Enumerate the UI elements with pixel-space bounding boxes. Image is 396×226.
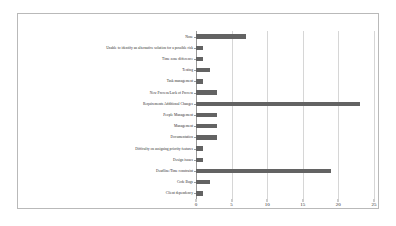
bar-row xyxy=(196,79,381,84)
category-label: Difficulty on assigning priority feature… xyxy=(40,147,193,151)
category-label: Deadline/Time constraint xyxy=(40,169,193,173)
bar-series xyxy=(196,31,381,199)
category-label: Time zone difference xyxy=(40,57,193,61)
bar-row xyxy=(196,191,381,196)
figure-canvas: NoneUnable to identify an alternative so… xyxy=(0,0,396,226)
bar xyxy=(196,113,217,118)
bar xyxy=(196,135,217,140)
bar-row xyxy=(196,90,381,95)
bar-row xyxy=(196,124,381,129)
bar-row xyxy=(196,180,381,185)
bar-row xyxy=(196,135,381,140)
bar xyxy=(196,158,203,163)
bar xyxy=(196,34,246,39)
value-tick-label-25: 25 xyxy=(371,202,376,208)
category-label: Testing xyxy=(40,68,193,72)
chart-frame: NoneUnable to identify an alternative so… xyxy=(17,13,379,209)
bar-row xyxy=(196,102,381,107)
bar xyxy=(196,191,203,196)
bar-row xyxy=(196,34,381,39)
value-tick-label-20: 20 xyxy=(336,202,341,208)
bar-row xyxy=(196,57,381,62)
bar-row xyxy=(196,113,381,118)
category-label: Requirements Additional Changes xyxy=(40,102,193,106)
bar xyxy=(196,169,331,174)
bar xyxy=(196,124,217,129)
bar-row xyxy=(196,46,381,51)
category-label: None xyxy=(40,35,193,39)
category-label: Management xyxy=(40,124,193,128)
bar xyxy=(196,102,360,107)
category-axis-labels: NoneUnable to identify an alternative so… xyxy=(40,31,193,199)
category-label: Code Bugs xyxy=(40,180,193,184)
value-tick-label-5: 5 xyxy=(230,202,233,208)
value-axis-tick-labels: 0510152025 xyxy=(196,202,381,214)
category-label: Documentation xyxy=(40,135,193,139)
category-label: Design issues xyxy=(40,158,193,162)
value-tick-label-0: 0 xyxy=(195,202,198,208)
bar-row xyxy=(196,169,381,174)
category-label: Task management xyxy=(40,79,193,83)
bar xyxy=(196,68,210,73)
category-label: Client dependency xyxy=(40,191,193,195)
category-label: New Process/Lack of Process xyxy=(40,91,193,95)
bar-row xyxy=(196,158,381,163)
category-label: Unable to identify an alternative soluti… xyxy=(40,46,193,50)
bar-row xyxy=(196,68,381,73)
bar xyxy=(196,57,203,62)
plot-area xyxy=(196,31,381,199)
bar xyxy=(196,90,217,95)
category-label: People Management xyxy=(40,113,193,117)
value-tick-label-15: 15 xyxy=(300,202,305,208)
value-tick-label-10: 10 xyxy=(265,202,270,208)
bar-row xyxy=(196,146,381,151)
bar xyxy=(196,146,203,151)
bar xyxy=(196,79,203,84)
bar xyxy=(196,180,210,185)
bar xyxy=(196,46,203,51)
